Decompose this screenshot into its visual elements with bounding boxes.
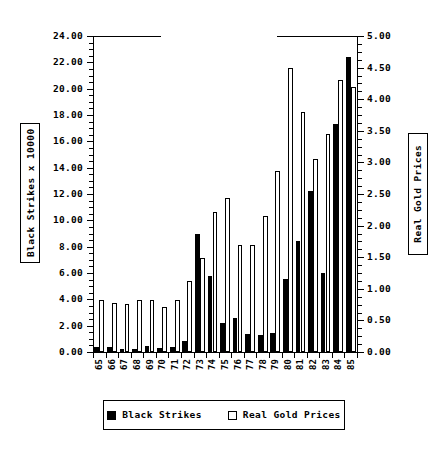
x-tick (307, 353, 308, 358)
bar-real-gold-prices (187, 281, 192, 352)
y-tick-right (358, 36, 364, 37)
y-tick-minor-right (358, 107, 362, 108)
x-tick (294, 353, 295, 358)
y-tick-right (358, 226, 364, 227)
bar-real-gold-prices (99, 300, 104, 352)
bar-real-gold-prices (263, 216, 268, 352)
bar-black-strikes (283, 279, 288, 352)
x-tick-label: 84 (333, 360, 343, 369)
y-tick-minor-right (358, 186, 362, 187)
y-tick-minor-right (358, 178, 362, 179)
y-tick-minor-right (358, 305, 362, 306)
bar-black-strikes (145, 346, 150, 352)
y-tick-minor-left (89, 253, 93, 254)
y-tick-minor-left (89, 260, 93, 261)
bar-real-gold-prices (225, 198, 230, 352)
y-tick-minor-right (358, 83, 362, 84)
chart-figure: Black Strikes x 10000 Real Gold Prices 0… (0, 0, 448, 454)
y-axis-title-right: Real Gold Prices (408, 133, 428, 255)
bar-real-gold-prices (275, 171, 280, 352)
y-tick-minor-left (89, 240, 93, 241)
bar-real-gold-prices (213, 212, 218, 352)
y-tick-minor-left (89, 313, 93, 314)
y-tick-minor-right (358, 123, 362, 124)
y-tick-minor-left (89, 227, 93, 228)
y-tick-label-right: 3.00 (367, 157, 391, 167)
legend-label-black-strikes: Black Strikes (122, 410, 202, 420)
bar-real-gold-prices (175, 300, 180, 352)
y-tick-minor-right (358, 336, 362, 337)
y-tick-left (87, 62, 93, 63)
y-tick-right (358, 99, 364, 100)
y-tick-minor-right (358, 155, 362, 156)
y-tick-minor-left (89, 286, 93, 287)
y-tick-minor-left (89, 280, 93, 281)
x-tick (118, 353, 119, 358)
y-tick-minor-left (89, 339, 93, 340)
legend-item-black-strikes: Black Strikes (107, 410, 202, 420)
y-tick-label-left: 24.00 (53, 31, 83, 41)
x-tick (106, 353, 107, 358)
bar-black-strikes (182, 341, 187, 352)
bar-real-gold-prices (150, 300, 155, 352)
bar-real-gold-prices (162, 307, 167, 352)
y-tick-minor-left (89, 128, 93, 129)
y-tick-label-left: 14.00 (53, 163, 83, 173)
y-tick-minor-right (358, 313, 362, 314)
legend-label-real-gold-prices: Real Gold Prices (243, 410, 341, 420)
y-tick-minor-left (89, 148, 93, 149)
bar-black-strikes (132, 349, 137, 352)
x-tick-label: 73 (195, 360, 205, 369)
x-tick-label: 82 (308, 360, 318, 369)
x-tick-label: 69 (145, 360, 155, 369)
x-tick (269, 353, 270, 358)
bar-real-gold-prices (326, 134, 331, 352)
x-tick-label: 75 (220, 360, 230, 369)
y-tick-right (358, 68, 364, 69)
y-tick-minor-left (89, 95, 93, 96)
y-tick-minor-right (358, 218, 362, 219)
y-tick-minor-right (358, 297, 362, 298)
bar-real-gold-prices (313, 159, 318, 352)
y-tick-left (87, 299, 93, 300)
x-tick-label: 79 (270, 360, 280, 369)
y-tick-right (358, 320, 364, 321)
y-tick-left (87, 247, 93, 248)
y-tick-minor-right (358, 170, 362, 171)
y-tick-minor-right (358, 249, 362, 250)
y-tick-left (87, 115, 93, 116)
y-tick-minor-left (89, 102, 93, 103)
y-tick-left (87, 168, 93, 169)
bar-black-strikes (270, 333, 275, 352)
bar-real-gold-prices (288, 68, 293, 352)
y-tick-minor-right (358, 210, 362, 211)
legend-item-real-gold-prices: Real Gold Prices (228, 410, 341, 420)
y-tick-label-left: 0.00 (59, 347, 83, 357)
x-tick (131, 353, 132, 358)
y-tick-left (87, 220, 93, 221)
bar-black-strikes (321, 273, 326, 352)
y-tick-minor-left (89, 187, 93, 188)
y-tick-right (358, 162, 364, 163)
y-tick-minor-right (358, 241, 362, 242)
y-tick-minor-right (358, 273, 362, 274)
bar-black-strikes (245, 334, 250, 352)
x-tick (344, 353, 345, 358)
x-tick (319, 353, 320, 358)
bar-black-strikes (107, 347, 112, 352)
y-tick-label-left: 12.00 (53, 189, 83, 199)
bar-black-strikes (94, 347, 99, 352)
y-tick-label-left: 8.00 (59, 242, 83, 252)
y-axis-title-left: Black Strikes x 10000 (20, 123, 40, 263)
bar-black-strikes (258, 335, 263, 352)
x-tick (194, 353, 195, 358)
y-tick-minor-right (358, 52, 362, 53)
y-tick-minor-left (89, 43, 93, 44)
x-tick-label: 67 (119, 360, 129, 369)
y-tick-minor-left (89, 207, 93, 208)
legend-swatch-open-white-square-icon (228, 411, 237, 420)
y-tick-minor-left (89, 332, 93, 333)
x-tick (219, 353, 220, 358)
legend-swatch-filled-black-square-icon (107, 411, 116, 420)
y-tick-minor-left (89, 82, 93, 83)
